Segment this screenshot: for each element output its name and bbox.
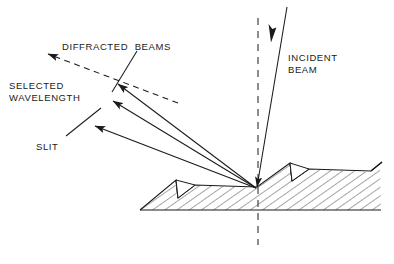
slit-leader-line bbox=[66, 108, 101, 136]
incident-beam-arrowhead bbox=[269, 24, 277, 43]
optical-diagram bbox=[0, 0, 394, 264]
diffracted-beam-middle bbox=[113, 101, 256, 188]
label-selected-wavelength: SELECTEDWAVELENGTH bbox=[9, 80, 80, 104]
diagram-canvas: DIFFRACTED BEAMS SELECTEDWAVELENGTH SLIT… bbox=[0, 0, 394, 264]
diffracted-beams-group bbox=[95, 84, 256, 188]
label-diffracted-beams: DIFFRACTED BEAMS bbox=[62, 41, 171, 53]
label-selected-wavelength-line2: WAVELENGTH bbox=[9, 92, 80, 103]
diffracted-beam-lower bbox=[95, 126, 256, 188]
label-selected-wavelength-line1: SELECTED bbox=[9, 80, 64, 91]
label-incident-beam: INCIDENTBEAM bbox=[288, 52, 338, 76]
label-incident-beam-line1: INCIDENT bbox=[288, 52, 338, 63]
label-incident-beam-line2: BEAM bbox=[288, 64, 317, 75]
label-slit: SLIT bbox=[36, 141, 58, 153]
diffracted-beam-upper bbox=[118, 84, 256, 188]
grating-structure bbox=[140, 162, 382, 210]
